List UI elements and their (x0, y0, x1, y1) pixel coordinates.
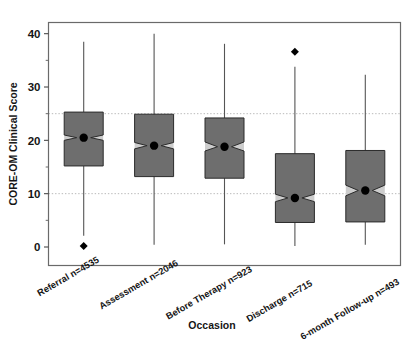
x-category-label-3: Before Therapy n=923 (164, 264, 253, 321)
x-category-label-4: Discharge n=715 (245, 278, 314, 324)
y-tick-label-10: 10 (28, 188, 41, 200)
median-dot (291, 194, 299, 202)
y-tick-label-20: 20 (28, 135, 41, 147)
box-notched (346, 150, 385, 221)
median-dot (361, 186, 369, 194)
y-axis-title: CORE-OM Clinical Score (7, 82, 19, 205)
boxplot-canvas: 010203040CORE-OM Clinical ScoreReferral … (0, 0, 417, 342)
median-dot (80, 133, 88, 141)
y-tick-label-0: 0 (34, 241, 40, 253)
median-dot (150, 141, 158, 149)
y-tick-label-30: 30 (28, 81, 41, 93)
y-tick-label-40: 40 (28, 28, 41, 40)
box-notched (275, 154, 314, 223)
boxplot-figure: 010203040CORE-OM Clinical ScoreReferral … (0, 0, 417, 342)
median-dot (220, 143, 228, 151)
x-category-label-5: 6-month Follow-up n=493 (299, 277, 401, 342)
x-axis-title: Occasion (188, 319, 235, 331)
